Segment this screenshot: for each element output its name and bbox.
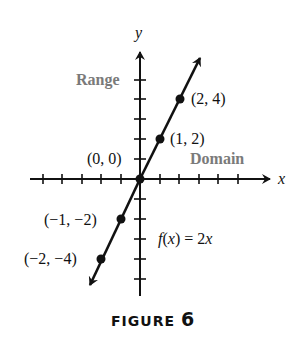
point-2-4 <box>176 95 185 104</box>
point-label-2-4: (2, 4) <box>191 90 226 108</box>
point-label-1-2: (1, 2) <box>170 130 205 148</box>
y-axis-label: y <box>133 24 143 42</box>
x-axis <box>30 174 270 184</box>
range-label: Range <box>76 71 120 89</box>
point-label-neg1-neg2: (−1, −2) <box>44 211 97 229</box>
x-axis-label: x <box>277 170 285 187</box>
point-0-0 <box>136 175 145 184</box>
point-1-2 <box>156 135 165 144</box>
figure-caption: FIGURE6 <box>111 308 194 330</box>
point-neg2-neg4 <box>97 255 106 264</box>
point-neg1-neg2 <box>117 215 126 224</box>
point-label-0-0: (0, 0) <box>87 150 122 168</box>
function-graph: y x Range Domain (2, 4) (1, 2) (0, 0) (−… <box>0 0 298 342</box>
point-label-neg2-neg4: (−2, −4) <box>24 250 77 268</box>
function-label: f(x) = 2x <box>158 230 212 248</box>
y-axis <box>134 52 146 296</box>
domain-label: Domain <box>190 150 244 167</box>
